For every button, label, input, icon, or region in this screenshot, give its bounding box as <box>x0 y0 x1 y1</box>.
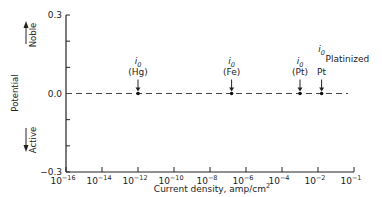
metal-label: (Fe) <box>223 67 240 77</box>
exchange-current-point: i0(Pt) <box>292 56 308 96</box>
x-tick-label: 10−12 <box>122 174 147 186</box>
exchange-current-point: i0(Hg) <box>128 56 148 96</box>
metal-label: (Pt) <box>292 67 308 77</box>
x-tick-label: 10−16 <box>50 174 75 186</box>
metal-label: (Hg) <box>128 67 148 77</box>
exchange-current-point: i0PtPlatinized <box>317 44 369 96</box>
x-tick-label: 10−1 <box>340 174 361 186</box>
x-tick-label: 10−4 <box>268 174 289 186</box>
point-marker-icon <box>136 92 140 96</box>
point-marker-icon <box>298 92 302 96</box>
y-axis-label: Potential <box>10 74 20 111</box>
noble-label: Noble <box>28 23 38 48</box>
metal-label: Pt <box>317 67 326 77</box>
y-tick-label: 0.3 <box>48 10 62 20</box>
point-marker-icon <box>230 92 234 96</box>
active-label: Active <box>28 127 38 153</box>
x-tick-label: 10−14 <box>86 174 111 186</box>
noble-annotation: Noble <box>24 21 39 47</box>
platinized-label: Platinized <box>326 54 370 64</box>
exchange-current-point: i0(Fe) <box>223 56 240 96</box>
point-marker-icon <box>320 92 324 96</box>
x-tick-label: 10−2 <box>304 174 325 186</box>
data-points: i0(Hg)i0(Fe)i0(Pt)i0PtPlatinized <box>128 44 369 96</box>
active-annotation: Active <box>24 127 39 153</box>
exchange-current-chart: 0.30.0−0.3 10−1610−1410−1210−1010−810−61… <box>0 0 382 197</box>
x-axis-label: Current density, amp/cm2 <box>154 182 270 194</box>
y-tick-label: 0.0 <box>48 89 63 99</box>
i0-label: i0 <box>318 44 325 57</box>
